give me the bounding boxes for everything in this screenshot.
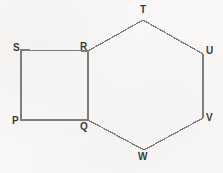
vertex-label-w: W [138,152,147,162]
vertex-label-t: T [140,5,146,15]
vertex-label-v: V [206,113,213,123]
vertex-label-r: R [80,42,87,52]
vertex-label-s: S [13,43,20,53]
vertex-label-u: U [206,46,213,56]
vertex-label-p: P [12,116,19,126]
figure-canvas [0,0,223,173]
vertex-label-q: Q [80,122,88,132]
square-pqrs-outline [21,50,88,120]
geometry-figure: S R T U P Q V W [0,0,223,173]
hexagon-qrtuvw-outline [88,20,203,150]
